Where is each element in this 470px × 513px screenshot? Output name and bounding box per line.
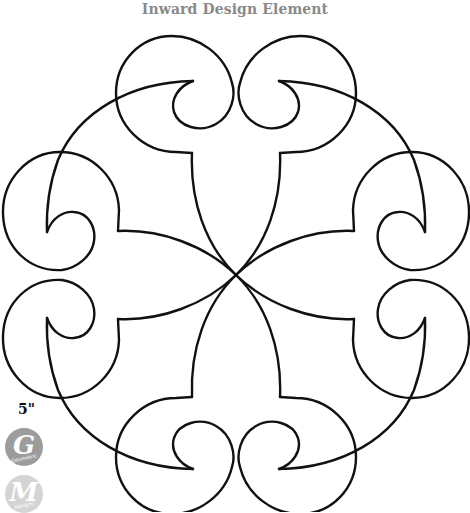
logo-letter-m: M [10, 479, 39, 505]
designs-logo-badge: M Designs [5, 475, 43, 513]
design-quadrant-mirror-y [3, 275, 236, 512]
size-label: 5" [18, 401, 35, 417]
design-quadrant-mirror-x [236, 36, 469, 275]
design-quadrant-mirror-xy [236, 275, 469, 512]
top-left-spiral [116, 36, 233, 153]
left-upper-spiral [3, 152, 119, 270]
design-quadrant [3, 36, 236, 275]
geometric-logo-badge: G Geometric [5, 428, 43, 466]
